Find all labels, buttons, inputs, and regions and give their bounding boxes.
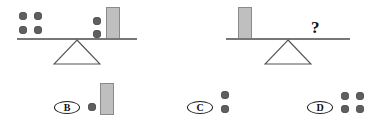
weight-dot [34, 12, 42, 20]
weight-dot [221, 91, 229, 99]
weight-dot [93, 17, 101, 25]
option-c-letter[interactable]: C [187, 101, 213, 114]
weight-dot [19, 12, 27, 20]
weight-dot [93, 30, 101, 38]
question-mark: ? [311, 19, 320, 36]
weight-bar [100, 83, 114, 115]
weight-dot [341, 92, 349, 100]
option-b-letter[interactable]: B [54, 101, 80, 114]
weight-dot [34, 26, 42, 34]
weight-dot [341, 105, 349, 113]
weight-bar [106, 7, 120, 39]
weight-dot [88, 103, 96, 111]
weight-bar [238, 7, 252, 39]
option-d-letter[interactable]: D [307, 101, 333, 114]
weight-dot [221, 105, 229, 113]
weight-dot [356, 105, 364, 113]
weight-dot [356, 92, 364, 100]
puzzle-canvas: ? B C D [0, 0, 378, 122]
weight-dot [19, 26, 27, 34]
